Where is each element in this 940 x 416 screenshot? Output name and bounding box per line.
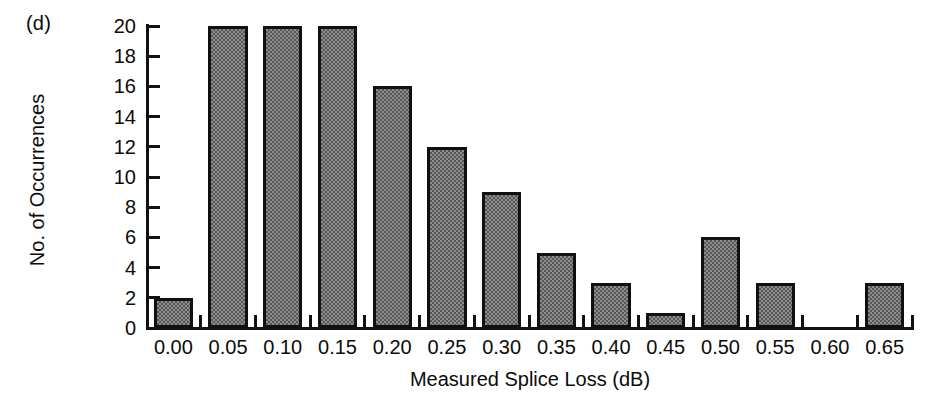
bar [646, 313, 685, 328]
bar [208, 26, 247, 328]
y-axis-title: No. of Occurrences [27, 94, 47, 266]
y-axis-tick-label: 8 [102, 197, 136, 217]
x-axis-title: Measured Splice Loss (dB) [146, 369, 914, 389]
bar [756, 283, 795, 328]
bar [591, 283, 630, 328]
y-axis-tick-label: 4 [102, 258, 136, 278]
y-axis-tick-label: 6 [102, 227, 136, 247]
bar [482, 192, 521, 328]
bar [865, 283, 904, 328]
bar [701, 237, 740, 328]
y-axis-tick-label: 2 [102, 288, 136, 308]
bar [263, 26, 302, 328]
y-axis-tick-label: 18 [102, 46, 136, 66]
y-axis-tick-label: 12 [102, 137, 136, 157]
y-axis-tick-label: 20 [102, 16, 136, 36]
bar [373, 86, 412, 328]
y-axis-tick-label: 16 [102, 76, 136, 96]
y-axis-tick-label: 10 [102, 167, 136, 187]
y-axis-title-wrapper: No. of Occurrences [22, 65, 52, 295]
bar [537, 253, 576, 329]
plot-area [146, 26, 912, 328]
x-axis-tick-label: 0.65 [850, 337, 920, 357]
bar [154, 298, 193, 328]
bar [427, 147, 466, 328]
panel-label: (d) [26, 13, 51, 33]
bar [318, 26, 357, 328]
figure-panel-d: (d) No. of Occurrences 02468101214161820… [0, 0, 940, 416]
y-axis-tick-label: 0 [102, 318, 136, 338]
y-axis-tick-label: 14 [102, 107, 136, 127]
